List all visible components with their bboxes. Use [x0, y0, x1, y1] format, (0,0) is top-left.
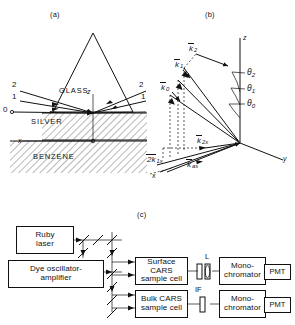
panel-b-projection-guides	[163, 68, 205, 160]
block-dye-oscillator-amplifier[interactable]: Dye oscillator- amplifier	[8, 260, 104, 288]
label-glass: GLASS	[59, 86, 89, 95]
optic-label-interference-filter: IF	[195, 285, 202, 294]
label-silver: SILVER	[31, 117, 63, 126]
vector-label-k2: k2	[188, 44, 197, 53]
block-pmt-top[interactable]: PMT	[264, 264, 291, 280]
beam-label-left-0: 0	[3, 105, 7, 114]
panel-c-caption: (c)	[137, 210, 146, 219]
block-pmt-bottom[interactable]: PMT	[264, 297, 291, 313]
block-monochromator-bottom[interactable]: Mono- chromator	[219, 290, 266, 318]
block-ruby-laser[interactable]: Ruby laser	[16, 226, 74, 254]
block-bulk-cars-line2: sample cell	[141, 304, 182, 313]
panel-b-caption: (b)	[205, 10, 215, 19]
block-monochromator-top[interactable]: Mono- chromator	[219, 257, 266, 285]
block-dye-line2: amplifier	[30, 274, 82, 283]
angle-label-theta1: θ1	[247, 83, 255, 94]
panel-a-x-label: x	[18, 137, 22, 144]
beam-label-right-1: 1	[141, 92, 145, 101]
angle-label-theta2: θ2	[247, 67, 255, 78]
beam-label-left-2: 2	[12, 80, 16, 89]
block-pmt-bot-label: PMT	[269, 301, 285, 309]
vector-label-k0: k0	[160, 83, 169, 92]
beam-label-right-2: 2	[139, 80, 143, 89]
vector-label-k2x: k2x	[196, 136, 208, 145]
block-ruby-laser-line2: laser	[35, 240, 54, 249]
label-benzene: BENZENE	[33, 152, 75, 161]
reflected-beams	[93, 91, 146, 113]
figure-root: (a)	[0, 0, 295, 325]
optic-label-lens: L	[205, 252, 209, 261]
panel-b-k2-vector	[184, 54, 228, 68]
angle-label-theta0: θ0	[247, 98, 255, 109]
block-surface-cars-sample-cell[interactable]: Surface CARS sample cell	[135, 257, 188, 285]
panel-a-z-label: z	[87, 88, 91, 95]
block-surface-cars-line1: Surface CARS	[136, 258, 187, 276]
vector-label-kas: kas	[186, 160, 198, 169]
panel-b-x-label: x	[152, 172, 156, 179]
panel-b-y-axis	[240, 143, 283, 160]
block-pmt-top-label: PMT	[269, 268, 285, 276]
panel-b-angle-leaders	[229, 72, 245, 118]
panel-b-y-label: y	[283, 155, 287, 162]
beam-label-left-1: 1	[12, 92, 16, 101]
vector-label-2k1x: 2k1x	[146, 155, 163, 164]
block-bulk-cars-sample-cell[interactable]: Bulk CARS sample cell	[135, 290, 188, 318]
panel-b-z-label: z	[243, 34, 247, 41]
block-mono-bot-line2: chromator	[224, 304, 261, 313]
vector-label-k1: k1	[174, 60, 183, 69]
block-surface-cars-line2: sample cell	[136, 275, 187, 284]
benzene-region	[10, 141, 147, 173]
panel-b-wavevectors	[168, 68, 240, 143]
block-mono-top-line2: chromator	[224, 271, 261, 280]
